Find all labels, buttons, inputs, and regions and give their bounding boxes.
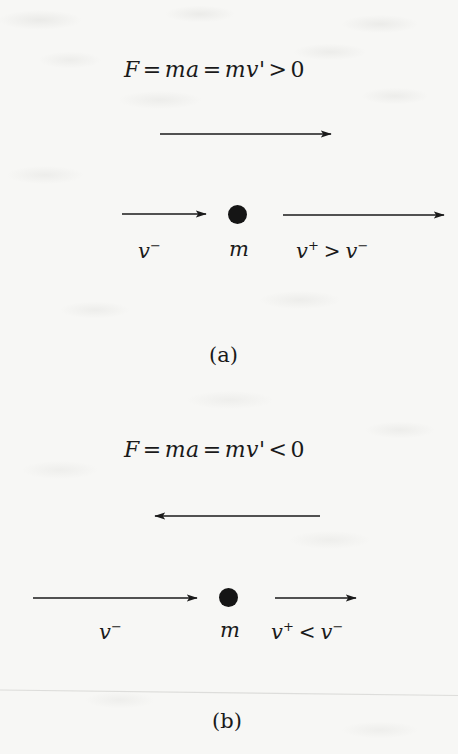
equation-panel-a: F=ma=mv'>0 — [124, 59, 305, 81]
v-plus-sign-a: + — [308, 238, 319, 253]
velocity-after-label-panel-b: v+<v− — [271, 622, 343, 643]
equation-b-relation: < — [265, 437, 290, 462]
caption-panel-a: (a) — [209, 343, 238, 367]
equation-b-equals-2: = — [200, 437, 225, 462]
velocity-after-label-panel-a: v+>v− — [296, 241, 368, 262]
mass-dot-panel-a — [228, 205, 247, 224]
equation-b-value: 0 — [290, 437, 305, 462]
v-minus-sign-a: − — [150, 238, 161, 253]
equation-a-ma: ma — [165, 57, 200, 82]
page-edge-rule — [0, 688, 458, 697]
equation-b-equals-1: = — [140, 437, 165, 462]
figure-page: F=ma=mv'>0 m v− v+>v− (a) F=ma=mv'<0 m v… — [0, 0, 458, 754]
v-minus-sign-b: − — [111, 619, 122, 634]
equation-b-ma: ma — [165, 437, 200, 462]
mass-label-panel-a: m — [229, 239, 249, 260]
equation-a-relation: > — [265, 57, 290, 82]
equation-b-mvprime: mv' — [225, 437, 266, 462]
velocity-relation-a: > — [319, 239, 346, 263]
equation-a-value: 0 — [290, 57, 305, 82]
velocity-before-label-panel-b: v− — [99, 622, 122, 643]
v-compare-symbol-a: v — [346, 239, 358, 263]
equation-a-mvprime: mv' — [225, 57, 266, 82]
velocity-before-label-panel-a: v− — [138, 241, 161, 262]
equation-a-force: F — [124, 57, 140, 82]
v-compare-symbol-b: v — [321, 620, 333, 644]
v-minus-symbol-b: v — [99, 620, 111, 644]
v-minus-symbol-a: v — [138, 239, 150, 263]
v-plus-symbol-b: v — [271, 620, 283, 644]
equation-b-force: F — [124, 437, 140, 462]
v-plus-sign-b: + — [283, 619, 294, 634]
v-compare-sign-a: − — [357, 238, 368, 253]
v-plus-symbol-a: v — [296, 239, 308, 263]
mass-dot-panel-b — [219, 588, 238, 607]
mass-label-panel-b: m — [220, 620, 240, 641]
v-compare-sign-b: − — [332, 619, 343, 634]
equation-panel-b: F=ma=mv'<0 — [124, 439, 305, 461]
velocity-relation-b: < — [294, 620, 321, 644]
equation-a-equals-1: = — [140, 57, 165, 82]
caption-panel-b: (b) — [212, 709, 242, 733]
equation-a-equals-2: = — [200, 57, 225, 82]
